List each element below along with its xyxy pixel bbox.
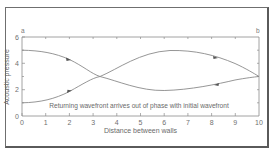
curves [22, 50, 259, 103]
x-tick-8: 8 [210, 119, 214, 126]
x-tick-1: 1 [44, 119, 48, 126]
x-tick-7: 7 [186, 119, 190, 126]
x-tick-9: 9 [233, 119, 237, 126]
y-tick-0: 0 [15, 113, 19, 120]
x-tick-labels: 0 1 2 3 4 5 6 7 8 9 10 [20, 119, 263, 126]
series-returning-wavefront [22, 50, 259, 102]
x-tick-2: 2 [67, 119, 71, 126]
x-axis-title: Distance between walls [104, 127, 178, 134]
x-tick-4: 4 [115, 119, 119, 126]
x-tick-5: 5 [139, 119, 143, 126]
x-tick-6: 6 [162, 119, 166, 126]
x-tick-10: 10 [255, 119, 263, 126]
phase-annotation: Returning wavefront arrives out of phase… [49, 102, 229, 110]
x-tick-0: 0 [20, 119, 24, 126]
arrow-icon [66, 58, 71, 62]
chart-svg: a b [0, 0, 276, 156]
y-ticks [22, 37, 259, 103]
series-initial-wavefront [22, 50, 259, 90]
y-tick-2: 2 [15, 86, 19, 93]
y-tick-4: 4 [15, 60, 19, 67]
y-tick-6: 6 [15, 34, 19, 41]
x-tick-3: 3 [91, 119, 95, 126]
y-axis-title: Acoustic pressure [3, 49, 11, 105]
corner-label-b: b [256, 27, 260, 34]
corner-label-a: a [21, 27, 25, 34]
